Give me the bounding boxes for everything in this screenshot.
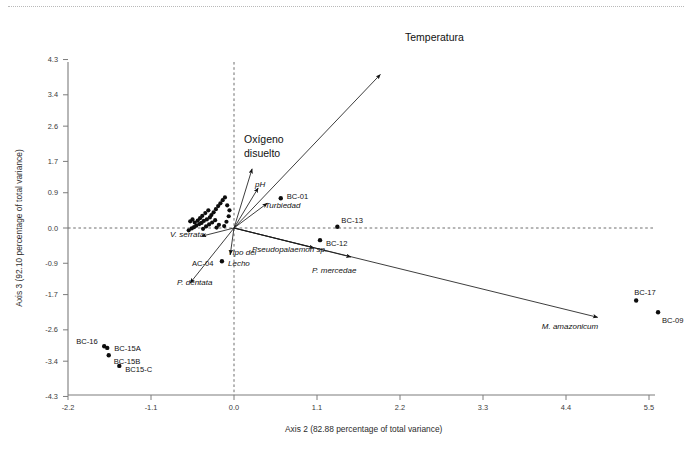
scatter-point — [227, 214, 231, 218]
x-axis-title: Axis 2 (82.88 percentage of total varian… — [285, 424, 443, 434]
sample-point-label: BC-13 — [341, 216, 363, 225]
sample-point-label: BC-09 — [662, 316, 684, 325]
scatter-cluster-group — [187, 195, 232, 232]
y-tick-label: -0.9 — [45, 259, 58, 268]
scatter-point — [201, 227, 205, 231]
vector-label: Oxígenodisuelto — [244, 133, 284, 159]
sample-point — [634, 298, 638, 302]
ordination-biplot-figure: 4.33.42.61.70.90.0-0.9-1.7-2.6-3.4-4.3 -… — [0, 0, 690, 457]
scatter-point — [188, 219, 192, 223]
x-tick-label: -2.2 — [62, 403, 75, 412]
scatter-point — [187, 228, 191, 232]
x-tick-label: 1.1 — [312, 403, 322, 412]
x-tick-label: 2.2 — [395, 403, 405, 412]
y-tick-label: 2.6 — [48, 122, 58, 131]
sample-point — [318, 238, 322, 242]
y-tick-label: 1.7 — [48, 157, 58, 166]
y-tick-label: 3.4 — [48, 90, 58, 99]
sample-point-label: BC-15A — [114, 344, 142, 353]
sample-point — [279, 196, 283, 200]
vector-arrow — [234, 169, 252, 228]
x-tick-label: 4.4 — [561, 403, 571, 412]
x-tick-label: 5.5 — [644, 403, 654, 412]
scatter-point — [223, 195, 227, 199]
scatter-point — [227, 208, 231, 212]
scatter-point — [222, 224, 226, 228]
sample-point — [117, 364, 121, 368]
sample-point — [105, 346, 109, 350]
y-axis-ticks: 4.33.42.61.70.90.0-0.9-1.7-2.6-3.4-4.3 — [45, 55, 68, 401]
vector-label: Turbiedad — [265, 201, 301, 210]
sample-point-label: BC-17 — [634, 288, 656, 297]
sample-point-label: AC-04 — [192, 259, 214, 268]
vector-label: P. dentata — [177, 278, 213, 287]
vector-arrow — [234, 203, 267, 228]
scatter-point — [225, 203, 229, 207]
vector-label: pH — [254, 180, 265, 189]
sample-point — [656, 310, 660, 314]
vector-label: P. mercedae — [312, 266, 357, 275]
x-tick-label: 3.3 — [478, 403, 488, 412]
x-tick-label: 0.0 — [229, 403, 239, 412]
vector-label: Pseudopalaemon sp. — [252, 245, 327, 254]
y-tick-label: 0.9 — [48, 188, 58, 197]
vector-label: M. amazonicum — [542, 322, 599, 331]
vector-arrow — [234, 188, 258, 228]
y-tick-label: 4.3 — [48, 55, 58, 64]
sample-point-label: BC-01 — [287, 192, 309, 201]
y-tick-label: -4.3 — [45, 392, 58, 401]
y-tick-label: 0.0 — [48, 224, 58, 233]
sample-point-label: BC-16 — [76, 337, 98, 346]
x-tick-label: -1.1 — [145, 403, 158, 412]
vector-label: Temperatura — [405, 31, 464, 43]
vector-arrow-group — [190, 74, 597, 317]
y-tick-label: -2.6 — [45, 325, 58, 334]
scatter-point — [224, 220, 228, 224]
y-tick-label: -1.7 — [45, 290, 58, 299]
x-axis-ticks: -2.2-1.10.01.12.23.34.45.5 — [62, 395, 655, 412]
zero-reference-lines — [68, 62, 655, 395]
sample-point-label: BC15-C — [125, 365, 153, 374]
scatter-point — [215, 226, 219, 230]
y-tick-label: -3.4 — [45, 357, 58, 366]
plot-canvas: 4.33.42.61.70.90.0-0.9-1.7-2.6-3.4-4.3 -… — [0, 0, 690, 457]
sample-point — [335, 225, 339, 229]
sample-point-label: BC-12 — [326, 239, 348, 248]
sample-point — [107, 353, 111, 357]
y-axis-title: Axis 3 (92.10 percentage of total varian… — [14, 149, 24, 307]
labeled-point-group: BC-01BC-13BC-12BC-17BC-09AC-04BC-16BC-15… — [76, 192, 683, 374]
sample-point — [220, 259, 224, 263]
